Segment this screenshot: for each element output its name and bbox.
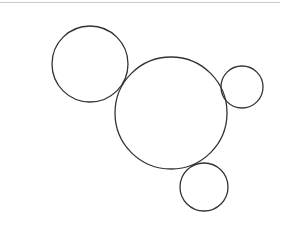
circles-diagram [0, 0, 281, 228]
circle-center-large [115, 57, 227, 169]
circle-bottom-small [180, 163, 228, 211]
circle-top-left [52, 26, 128, 102]
circle-right-small [221, 66, 263, 108]
